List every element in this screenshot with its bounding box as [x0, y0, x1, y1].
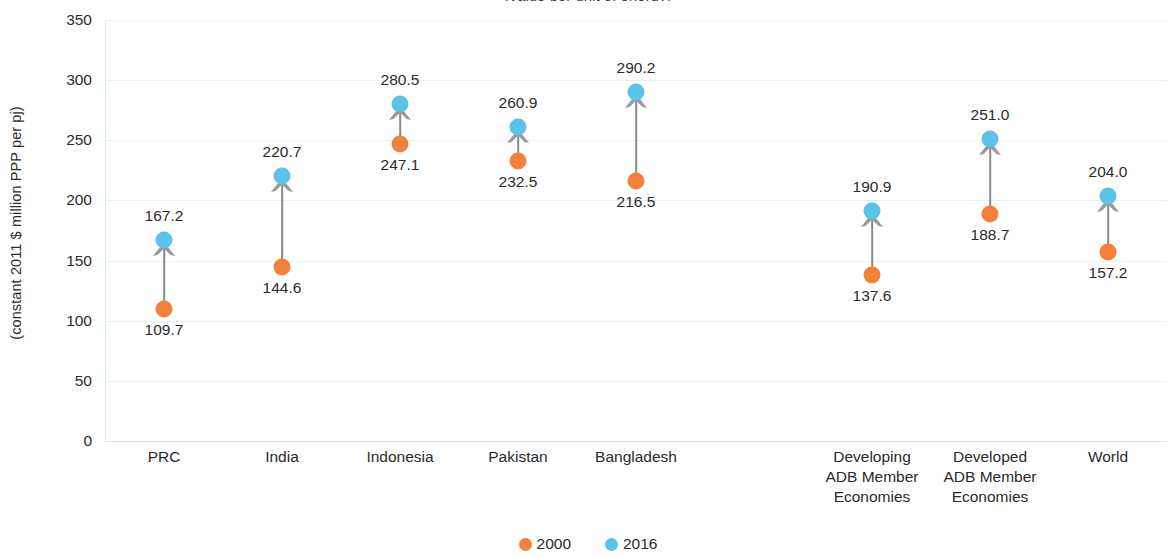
x-axis-label-line: Pakistan: [488, 447, 547, 467]
data-point-2016[interactable]: [628, 83, 645, 100]
x-axis-label-line: ADB Member: [943, 467, 1036, 487]
x-axis-label: Bangladesh: [595, 447, 677, 467]
x-axis-label-line: PRC: [148, 447, 181, 467]
x-axis-label-line: Developing: [825, 447, 918, 467]
category-group: 220.7144.6: [223, 20, 341, 441]
x-axis-label-line: Economies: [825, 487, 918, 507]
x-axis-label: India: [265, 447, 299, 467]
y-axis-tick-label: 250: [0, 131, 92, 149]
value-label-2000: 232.5: [499, 173, 538, 191]
legend-marker-icon: [519, 538, 532, 551]
y-axis-tick-label: 350: [0, 11, 92, 29]
x-axis-label-line: India: [265, 447, 299, 467]
x-axis-label: DevelopingADB MemberEconomies: [825, 447, 918, 507]
plot-area: 167.2109.7220.7144.6280.5247.1260.9232.5…: [105, 20, 1167, 441]
y-axis-tick-label: 150: [0, 252, 92, 270]
value-label-2000: 247.1: [381, 156, 420, 174]
x-axis-label-line: Indonesia: [366, 447, 433, 467]
category-group: 280.5247.1: [341, 20, 459, 441]
x-axis-label-line: Bangladesh: [595, 447, 677, 467]
chart-legend: 20002016: [0, 535, 1176, 553]
legend-marker-icon: [605, 538, 618, 551]
value-label-2016: 290.2: [617, 59, 656, 77]
x-axis-label-line: Developed: [943, 447, 1036, 467]
value-label-2016: 260.9: [499, 94, 538, 112]
category-group: 251.0188.7: [931, 20, 1049, 441]
y-axis-tick-label: 50: [0, 372, 92, 390]
category-group: 167.2109.7: [105, 20, 223, 441]
y-axis-tick-label: 0: [0, 432, 92, 450]
data-point-2016[interactable]: [274, 167, 291, 184]
y-axis-tick-labels: 050100150200250300350: [0, 0, 98, 557]
category-group: 290.2216.5: [577, 20, 695, 441]
x-axis-label-line: Economies: [943, 487, 1036, 507]
value-label-2000: 109.7: [145, 321, 184, 339]
value-label-2000: 137.6: [853, 287, 892, 305]
x-axis-label: DevelopedADB MemberEconomies: [943, 447, 1036, 507]
gridline: [105, 441, 1167, 442]
value-label-2000: 216.5: [617, 193, 656, 211]
value-label-2016: 220.7: [263, 143, 302, 161]
value-label-2016: 190.9: [853, 178, 892, 196]
value-label-2016: 280.5: [381, 71, 420, 89]
legend-label: 2016: [623, 535, 657, 553]
x-axis-label: World: [1088, 447, 1128, 467]
data-point-2000[interactable]: [982, 206, 999, 223]
legend-item[interactable]: 2016: [605, 535, 657, 553]
data-point-2000[interactable]: [510, 153, 527, 170]
data-point-2016[interactable]: [392, 95, 409, 112]
value-label-2016: 204.0: [1089, 163, 1128, 181]
x-axis-label-line: ADB Member: [825, 467, 918, 487]
value-label-2000: 144.6: [263, 279, 302, 297]
data-point-2016[interactable]: [982, 131, 999, 148]
legend-label: 2000: [537, 535, 571, 553]
value-label-2016: 167.2: [145, 207, 184, 225]
category-group: 204.0157.2: [1049, 20, 1167, 441]
value-label-2016: 251.0: [971, 106, 1010, 124]
x-axis-label: Indonesia: [366, 447, 433, 467]
x-axis-label: Pakistan: [488, 447, 547, 467]
data-point-2000[interactable]: [392, 135, 409, 152]
x-axis-category-labels: PRCIndiaIndonesiaPakistanBangladeshDevel…: [105, 447, 1167, 517]
value-label-2000: 188.7: [971, 226, 1010, 244]
data-point-2016[interactable]: [510, 119, 527, 136]
data-point-2000[interactable]: [274, 259, 291, 276]
data-point-2000[interactable]: [864, 267, 881, 284]
legend-item[interactable]: 2000: [519, 535, 571, 553]
value-label-2000: 157.2: [1089, 264, 1128, 282]
data-point-2000[interactable]: [156, 301, 173, 318]
data-point-2016[interactable]: [1100, 187, 1117, 204]
y-axis-tick-label: 100: [0, 312, 92, 330]
x-axis-label: PRC: [148, 447, 181, 467]
y-axis-tick-label: 200: [0, 191, 92, 209]
category-group: 190.9137.6: [813, 20, 931, 441]
data-point-2016[interactable]: [864, 203, 881, 220]
y-axis-tick-label: 300: [0, 71, 92, 89]
data-point-2000[interactable]: [1100, 243, 1117, 260]
chart-title: (value per unit of energy): [0, 0, 1176, 1]
data-point-2016[interactable]: [156, 231, 173, 248]
category-group: 260.9232.5: [459, 20, 577, 441]
x-axis-label-line: World: [1088, 447, 1128, 467]
data-point-2000[interactable]: [628, 172, 645, 189]
